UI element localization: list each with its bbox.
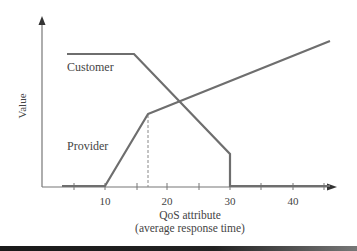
x-tick-label-30: 30 [225,195,237,207]
x-tick-label-10: 10 [100,195,112,207]
chart: 10 20 30 40 Customer Provider Value QoS … [0,0,357,251]
x-axis-title: QoS attribute [159,209,221,221]
customer-label: Customer [67,60,114,74]
bottom-border-bar [0,246,357,251]
provider-label: Provider [67,139,108,153]
x-axis-subtitle: (average response time) [135,222,245,235]
y-axis-arrow-icon [39,16,46,25]
x-tick-label-40: 40 [288,195,300,207]
x-tick-label-20: 20 [162,195,174,207]
y-axis-title: Value [16,93,28,118]
